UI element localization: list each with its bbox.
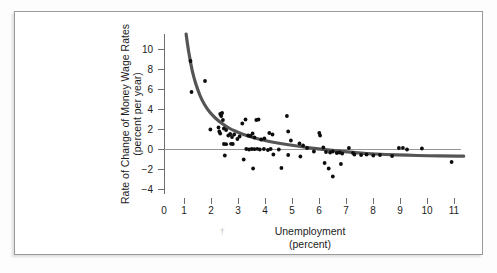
data-point <box>242 158 246 162</box>
data-point <box>224 142 228 146</box>
x-tick-label: 4 <box>262 205 268 216</box>
y-tick-label: 2 <box>147 124 153 135</box>
data-point <box>378 153 382 157</box>
data-point <box>238 135 242 139</box>
y-axis-units: (percent per year) <box>131 72 143 155</box>
phillips-fit-curve <box>186 34 464 156</box>
data-point <box>190 90 194 94</box>
x-axis-ticks: 0 1 2 3 4 5 6 7 8 9 <box>161 198 459 216</box>
data-point <box>220 111 224 115</box>
x-axis-units: (percent) <box>289 238 331 250</box>
data-point <box>223 154 227 158</box>
data-point <box>312 150 316 154</box>
data-point <box>347 146 351 150</box>
data-point <box>301 144 305 148</box>
data-point <box>365 153 369 157</box>
data-point <box>420 147 424 151</box>
data-point <box>318 134 322 138</box>
y-tick-label: 0 <box>147 144 153 155</box>
data-point <box>331 150 335 154</box>
x-tick-label: 0 <box>161 205 167 216</box>
print-smudge: † <box>220 226 225 236</box>
data-point <box>324 150 328 154</box>
data-point <box>209 128 213 132</box>
data-point <box>253 136 257 140</box>
y-tick-label: 8 <box>147 64 153 75</box>
data-point <box>272 153 276 157</box>
data-point <box>277 148 281 152</box>
x-tick-label: 7 <box>343 205 349 216</box>
data-point <box>353 153 357 157</box>
data-point <box>203 79 207 83</box>
x-tick-label: 9 <box>397 205 403 216</box>
y-tick-label: −2 <box>142 164 154 175</box>
data-point <box>224 128 228 132</box>
data-point <box>299 155 303 159</box>
x-tick-label: 8 <box>370 205 376 216</box>
data-point <box>298 142 302 146</box>
x-tick-label: 2 <box>208 205 214 216</box>
data-point <box>221 118 225 122</box>
page-canvas: † 10 8 6 4 2 0 −2 <box>0 0 497 273</box>
figure-frame: † 10 8 6 4 2 0 −2 <box>14 11 483 255</box>
x-axis-title: Unemployment <box>275 225 346 237</box>
data-point <box>271 133 275 137</box>
y-tick-label: 10 <box>142 44 154 55</box>
data-point <box>286 130 290 134</box>
data-point <box>401 146 405 150</box>
x-tick-label: 1 <box>181 205 187 216</box>
x-tick-label: 3 <box>235 205 241 216</box>
x-tick-label: 10 <box>421 205 433 216</box>
scatter-points <box>189 59 454 178</box>
data-point <box>359 153 363 157</box>
data-point <box>263 137 267 141</box>
data-point <box>251 167 255 171</box>
data-point <box>286 153 290 157</box>
x-tick-label: 5 <box>289 205 295 216</box>
data-point <box>371 154 375 158</box>
data-point <box>390 154 394 158</box>
data-point <box>339 162 343 166</box>
data-point <box>331 175 335 179</box>
data-point <box>340 152 344 156</box>
data-point <box>231 142 235 146</box>
data-point <box>285 114 289 118</box>
y-tick-label: 6 <box>147 84 153 95</box>
data-point <box>257 118 261 122</box>
data-point <box>262 147 266 151</box>
y-axis-title: Rate of Change of Money Wage Rates <box>119 24 131 204</box>
data-point <box>269 147 273 151</box>
data-point <box>280 166 284 170</box>
data-point <box>289 139 293 143</box>
data-point <box>232 133 236 137</box>
data-point <box>244 118 248 122</box>
y-tick-label: 4 <box>147 104 153 115</box>
data-point <box>240 122 244 126</box>
data-point <box>189 59 193 63</box>
data-point <box>327 167 331 171</box>
y-axis-ticks: 10 8 6 4 2 0 −2 −4 <box>142 44 164 195</box>
y-tick-label: −4 <box>142 184 154 195</box>
data-point <box>251 132 255 136</box>
data-point <box>397 146 401 150</box>
data-point <box>258 148 262 152</box>
data-point <box>305 146 309 150</box>
data-point <box>405 148 409 152</box>
x-tick-label: 6 <box>316 205 322 216</box>
data-point <box>450 160 454 164</box>
data-point <box>323 161 327 165</box>
data-point <box>217 126 221 130</box>
data-point <box>321 146 325 150</box>
data-point <box>218 132 222 136</box>
phillips-curve-chart: † 10 8 6 4 2 0 −2 <box>15 12 482 254</box>
x-tick-label: 11 <box>449 205 460 216</box>
